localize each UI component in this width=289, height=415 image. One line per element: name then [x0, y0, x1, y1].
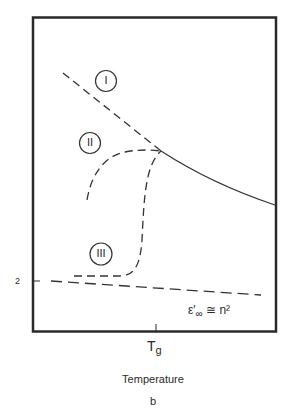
curve-eps-inf: [51, 281, 261, 295]
curve-II: [87, 150, 161, 200]
curve-label-I: I: [96, 74, 116, 86]
annot-rest: ≅ n²: [203, 303, 230, 317]
curve-III: [74, 151, 161, 276]
x-axis-label: Temperature: [108, 373, 198, 385]
panel-label: b: [150, 395, 156, 407]
eps-inf-annotation: ε′∞ ≅ n²: [188, 303, 230, 319]
curve-label-III: III: [90, 247, 112, 259]
chart-plot: [0, 0, 289, 415]
x-tick-label-tg: Tg: [147, 338, 162, 356]
annot-eps: ε′: [188, 303, 196, 317]
curve-above-tg: [161, 151, 275, 205]
curve-label-II: II: [80, 136, 100, 148]
tg-main: T: [147, 338, 156, 354]
plot-frame: [33, 18, 276, 332]
y-tick-label-2: 2: [15, 276, 20, 286]
tg-sub: g: [156, 344, 162, 356]
annot-inf: ∞: [196, 308, 203, 319]
